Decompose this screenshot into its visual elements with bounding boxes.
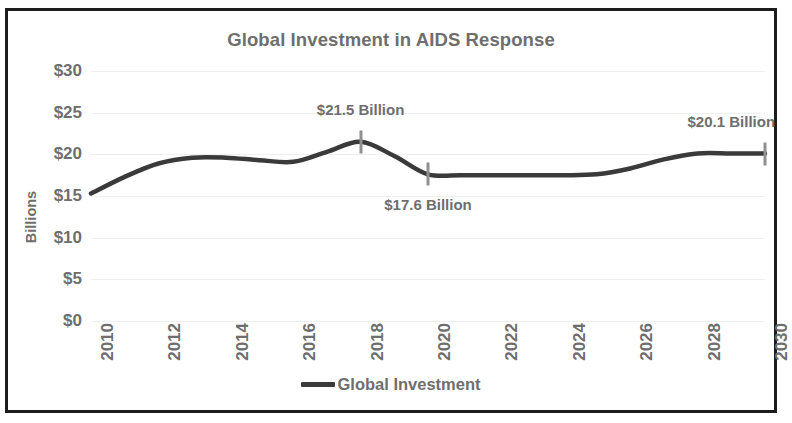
y-axis-tick-label: $25 — [54, 103, 82, 123]
chart-title: Global Investment in AIDS Response — [8, 29, 774, 51]
x-axis-tick-label: 2022 — [502, 323, 522, 361]
y-axis-tick-label: $0 — [63, 311, 82, 331]
x-axis-tick-label: 2020 — [435, 323, 455, 361]
legend-item-label: Global Investment — [337, 375, 480, 394]
data-annotation-label: $20.1 Billion — [688, 113, 776, 130]
x-axis-tick-label: 2024 — [570, 323, 590, 361]
x-axis-tick-label: 2016 — [300, 323, 320, 361]
legend-line-swatch — [301, 382, 335, 387]
chart-legend: Global Investment — [8, 375, 774, 394]
gridline — [91, 321, 765, 322]
x-axis-tick-label: 2028 — [705, 323, 725, 361]
x-axis-tick-label: 2014 — [233, 323, 253, 361]
data-annotation-label: $17.6 Billion — [384, 196, 472, 213]
y-axis-tick-label: $15 — [54, 186, 82, 206]
data-point-marker — [427, 163, 430, 186]
y-axis-title: Billions — [23, 172, 39, 262]
legend-item-global-investment[interactable]: Global Investment — [301, 375, 480, 394]
chart-container: Global Investment in AIDS Response Billi… — [5, 8, 777, 413]
x-axis-tick-label: 2026 — [637, 323, 657, 361]
y-axis-tick-label: $30 — [54, 61, 82, 81]
data-point-marker — [359, 130, 362, 153]
data-point-marker — [764, 142, 767, 165]
x-axis-tick-label: 2010 — [98, 323, 118, 361]
x-axis-tick-label: 2018 — [368, 323, 388, 361]
x-axis-tick-label: 2030 — [772, 323, 792, 361]
data-annotation-label: $21.5 Billion — [317, 101, 405, 118]
y-axis-tick-label: $20 — [54, 144, 82, 164]
y-axis-tick-label: $10 — [54, 228, 82, 248]
x-axis-tick-label: 2012 — [165, 323, 185, 361]
y-axis-tick-label: $5 — [63, 269, 82, 289]
plot-area: $30$25$20$15$10$5$0 $21.5 Billion$17.6 B… — [91, 71, 765, 321]
